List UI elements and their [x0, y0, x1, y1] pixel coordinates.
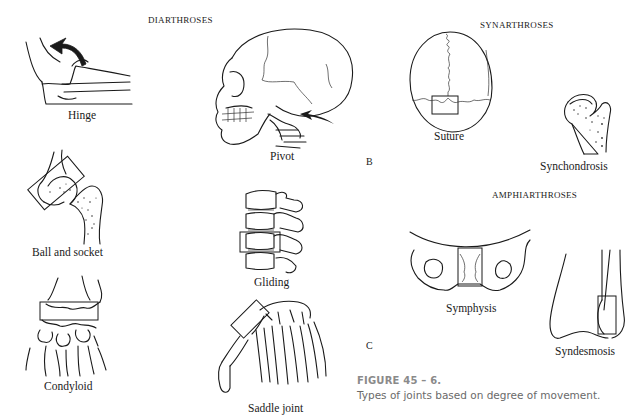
saddle-joint-illustration [200, 290, 340, 400]
label-gliding: Gliding [254, 276, 289, 288]
pivot-joint-illustration [0, 0, 360, 160]
symphysis-joint-illustration [400, 220, 540, 310]
label-symphysis: Symphysis [446, 302, 497, 314]
section-header-amphiarthroses: AMPHIARTHROSES [492, 190, 577, 200]
panel-letter-b: B [366, 156, 373, 167]
figure-caption: Types of joints based on degree of movem… [357, 389, 600, 401]
ball-and-socket-joint-illustration [0, 140, 120, 250]
condyloid-joint-illustration [0, 270, 120, 380]
label-ball-and-socket: Ball and socket [32, 246, 103, 258]
bone-texture [49, 183, 96, 234]
suture-joint-illustration [400, 20, 520, 140]
figure-title: FIGURE 45 – 6. [357, 375, 441, 386]
syndesmosis-joint-illustration [540, 240, 638, 350]
label-saddle-joint: Saddle joint [248, 402, 303, 414]
panel-letter-c: C [366, 340, 373, 351]
gliding-joint-illustration [200, 180, 320, 280]
label-suture: Suture [434, 130, 464, 142]
pivot-arrow-icon [300, 110, 334, 124]
label-pivot: Pivot [270, 150, 294, 162]
label-synchondrosis: Synchondrosis [540, 160, 608, 172]
label-syndesmosis: Syndesmosis [555, 345, 615, 357]
label-condyloid: Condyloid [44, 380, 93, 392]
